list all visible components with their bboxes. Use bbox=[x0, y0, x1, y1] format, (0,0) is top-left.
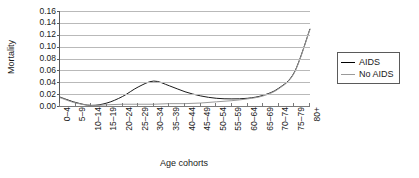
x-tick-label: 10–14 bbox=[94, 107, 102, 153]
x-tick-mark bbox=[184, 103, 185, 107]
x-tick-mark bbox=[293, 103, 294, 107]
x-tick-label: 60–64 bbox=[250, 107, 258, 153]
gridline bbox=[60, 47, 310, 48]
y-tick-mark bbox=[57, 11, 60, 12]
y-tick-mark bbox=[57, 47, 60, 48]
x-tick-label: 50–54 bbox=[219, 107, 227, 153]
x-tick-mark bbox=[137, 103, 138, 107]
x-tick-mark bbox=[215, 103, 216, 107]
x-tick-mark bbox=[247, 103, 248, 107]
legend-item-label: No AIDS bbox=[359, 68, 394, 80]
plot-area bbox=[59, 11, 310, 107]
gridline bbox=[60, 59, 310, 60]
x-tick-label: 40–44 bbox=[188, 107, 196, 153]
y-tick-label: 0.02 bbox=[22, 90, 56, 99]
x-axis-title: Age cohorts bbox=[59, 158, 309, 168]
legend-line-swatch bbox=[341, 74, 355, 75]
y-tick-label: 0.04 bbox=[22, 78, 56, 87]
x-tick-label: 15–19 bbox=[109, 107, 117, 153]
x-tick-label: 25–29 bbox=[141, 107, 149, 153]
y-axis-title: Mortality bbox=[4, 18, 18, 96]
gridline bbox=[60, 82, 310, 83]
x-tick-mark bbox=[278, 103, 279, 107]
chart-legend: AIDSNo AIDS bbox=[337, 52, 400, 84]
x-tick-label: 5–9 bbox=[78, 107, 86, 153]
x-tick-label: 80+ bbox=[313, 107, 321, 153]
y-tick-mark bbox=[57, 82, 60, 83]
legend-item-label: AIDS bbox=[359, 56, 380, 68]
x-axis-tick-labels: 0–45–910–1415–1920–2425–2930–3435–3940–4… bbox=[59, 107, 311, 155]
x-tick-label: 70–74 bbox=[281, 107, 289, 153]
legend-item[interactable]: AIDS bbox=[341, 56, 394, 68]
x-tick-mark bbox=[200, 103, 201, 107]
legend-item[interactable]: No AIDS bbox=[341, 68, 394, 80]
y-tick-label: 0.00 bbox=[22, 102, 56, 111]
x-tick-mark bbox=[90, 103, 91, 107]
x-tick-mark bbox=[153, 103, 154, 107]
x-tick-mark bbox=[168, 103, 169, 107]
y-tick-label: 0.10 bbox=[22, 42, 56, 51]
gridline bbox=[60, 11, 310, 12]
y-tick-mark bbox=[57, 35, 60, 36]
y-axis-tick-labels: 0.000.020.040.060.080.100.120.140.16 bbox=[22, 5, 56, 117]
x-tick-label: 30–34 bbox=[156, 107, 164, 153]
y-tick-mark bbox=[57, 23, 60, 24]
x-tick-label: 55–59 bbox=[234, 107, 242, 153]
y-tick-label: 0.16 bbox=[22, 7, 56, 16]
y-tick-label: 0.12 bbox=[22, 30, 56, 39]
y-tick-mark bbox=[57, 94, 60, 95]
x-tick-label: 65–69 bbox=[266, 107, 274, 153]
y-tick-label: 0.06 bbox=[22, 66, 56, 75]
x-tick-mark bbox=[122, 103, 123, 107]
x-tick-mark bbox=[262, 103, 263, 107]
x-tick-label: 0–4 bbox=[63, 107, 71, 153]
y-tick-label: 0.14 bbox=[22, 18, 56, 27]
gridline bbox=[60, 35, 310, 36]
x-tick-label: 75–79 bbox=[297, 107, 305, 153]
x-tick-label: 35–39 bbox=[172, 107, 180, 153]
gridline bbox=[60, 70, 310, 71]
x-tick-mark bbox=[75, 103, 76, 107]
y-tick-mark bbox=[57, 70, 60, 71]
x-tick-mark bbox=[231, 103, 232, 107]
x-tick-label: 45–49 bbox=[203, 107, 211, 153]
y-tick-label: 0.08 bbox=[22, 54, 56, 63]
mortality-by-age-cohort-chart: Mortality 0.000.020.040.060.080.100.120.… bbox=[0, 0, 419, 178]
y-tick-mark bbox=[57, 59, 60, 60]
x-tick-mark bbox=[309, 103, 310, 107]
legend-line-swatch bbox=[341, 62, 355, 63]
gridline bbox=[60, 23, 310, 24]
x-tick-mark bbox=[106, 103, 107, 107]
gridline bbox=[60, 94, 310, 95]
x-tick-label: 20–24 bbox=[125, 107, 133, 153]
x-tick-mark bbox=[59, 103, 60, 107]
